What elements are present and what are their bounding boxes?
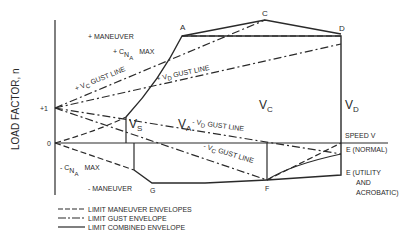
point-c: C bbox=[262, 9, 268, 18]
y-tick-plus-one: +1 bbox=[40, 105, 48, 112]
point-e-utility-1: E (UTILITY bbox=[346, 169, 381, 177]
neg-maneuver-label: - MANEUVER bbox=[88, 185, 132, 192]
gust-peak-c bbox=[182, 20, 341, 36]
vn-diagram: LOAD FACTOR, n +1 0 A C D E (NORMAL) E (… bbox=[0, 0, 420, 245]
va-label: VA bbox=[178, 117, 192, 133]
vs-label: VS bbox=[129, 117, 142, 133]
speed-axis-label: SPEED V bbox=[345, 132, 376, 139]
legend-combined: LIMIT COMBINED ENVELOPE bbox=[88, 224, 185, 231]
neg-vd-gust-line bbox=[55, 108, 341, 154]
y-tick-zero: 0 bbox=[47, 140, 51, 147]
neg-cna-max-label: - CNAMAX bbox=[60, 164, 100, 177]
point-e-normal: E (NORMAL) bbox=[346, 146, 387, 154]
pos-vc-gust-line bbox=[55, 20, 265, 108]
point-e-utility-3: ACROBATIC) bbox=[356, 189, 399, 197]
point-g: G bbox=[150, 187, 155, 194]
vd-label: VD bbox=[345, 98, 359, 114]
pos-maneuver-label: + MANEUVER bbox=[88, 33, 134, 40]
point-e-utility-2: AND bbox=[356, 179, 371, 186]
neg-vc-gust-label: - VCGUST LINE bbox=[202, 142, 255, 166]
pos-cna-max-dashed bbox=[55, 117, 126, 143]
combined-envelope bbox=[126, 36, 341, 183]
pos-cna-max-label: + CNAMAX bbox=[113, 48, 155, 61]
point-a: A bbox=[180, 23, 186, 32]
point-d: D bbox=[339, 24, 345, 33]
y-axis-label: LOAD FACTOR, n bbox=[10, 68, 21, 150]
point-f: F bbox=[265, 185, 269, 192]
legend-maneuver: LIMIT MANEUVER ENVELOPES bbox=[88, 206, 192, 213]
legend-gust: LIMIT GUST ENVELOPE bbox=[88, 215, 167, 222]
vc-label: VC bbox=[259, 98, 273, 114]
